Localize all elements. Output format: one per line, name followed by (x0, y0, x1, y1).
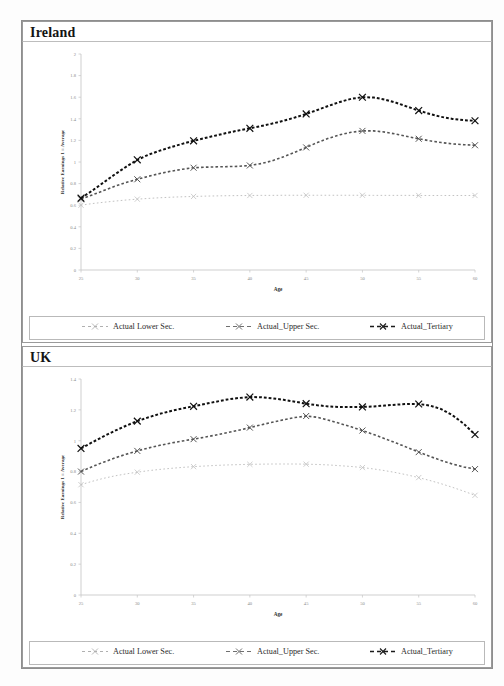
legend-swatch-upper-sec (226, 647, 252, 656)
svg-text:Age: Age (274, 611, 283, 617)
svg-text:0.2: 0.2 (70, 246, 76, 251)
svg-text:25: 25 (79, 276, 84, 281)
svg-text:0: 0 (74, 268, 77, 273)
panel-uk: UK 00.20.40.60.811.21.42530354045505560A… (22, 346, 492, 668)
legend-swatch-lower-sec (82, 647, 108, 656)
svg-text:0.2: 0.2 (70, 562, 76, 567)
svg-text:40: 40 (248, 276, 253, 281)
legend-item-lower-sec[interactable]: Actual Lower Sec. (82, 646, 174, 656)
svg-text:Age: Age (274, 286, 283, 292)
scanned-page: Ireland 00.20.40.60.811.21.41.61.8225303… (0, 0, 504, 686)
svg-text:Relative Earnings 1 = Average: Relative Earnings 1 = Average (60, 129, 65, 194)
uk-plot-area: 00.20.40.60.811.21.42530354045505560AgeR… (23, 367, 491, 639)
svg-text:55: 55 (416, 601, 421, 606)
svg-text:45: 45 (304, 276, 309, 281)
panel-ireland-body: 00.20.40.60.811.21.41.61.822530354045505… (22, 42, 492, 343)
panel-ireland-title: Ireland (30, 25, 76, 40)
svg-text:0.6: 0.6 (70, 203, 76, 208)
svg-text:35: 35 (191, 601, 196, 606)
legend-swatch-tertiary (370, 647, 396, 656)
svg-text:0: 0 (74, 593, 77, 598)
legend-label-tertiary: Actual_Tertiary (401, 647, 453, 656)
svg-text:0.8: 0.8 (70, 181, 76, 186)
legend-swatch-tertiary (370, 322, 396, 331)
page-frame: Ireland 00.20.40.60.811.21.41.61.8225303… (21, 20, 493, 669)
legend-label-tertiary: Actual_Tertiary (401, 322, 453, 331)
svg-text:30: 30 (135, 276, 140, 281)
svg-text:30: 30 (135, 601, 140, 606)
legend-swatch-upper-sec (226, 322, 252, 331)
svg-text:55: 55 (416, 276, 421, 281)
svg-text:0.6: 0.6 (70, 500, 76, 505)
svg-text:0.8: 0.8 (70, 469, 76, 474)
uk-chart: 00.20.40.60.811.21.42530354045505560AgeR… (23, 367, 491, 639)
svg-text:1: 1 (74, 160, 77, 165)
svg-text:60: 60 (473, 276, 478, 281)
svg-text:Relative Earnings 1 = Average: Relative Earnings 1 = Average (60, 454, 65, 519)
panel-uk-title: UK (30, 350, 51, 365)
svg-text:60: 60 (473, 601, 478, 606)
legend-swatch-lower-sec (82, 322, 108, 331)
legend-item-upper-sec[interactable]: Actual_Upper Sec. (226, 321, 319, 331)
ireland-legend: Actual Lower Sec. Actual_Upper Sec. (29, 316, 485, 340)
ireland-plot-area: 00.20.40.60.811.21.41.61.822530354045505… (23, 42, 491, 314)
svg-text:1.2: 1.2 (70, 408, 76, 413)
svg-text:50: 50 (360, 276, 365, 281)
panel-ireland: Ireland 00.20.40.60.811.21.41.61.8225303… (22, 21, 492, 343)
svg-text:0.4: 0.4 (70, 531, 76, 536)
svg-text:45: 45 (304, 601, 309, 606)
svg-text:1.2: 1.2 (70, 138, 76, 143)
legend-label-upper-sec: Actual_Upper Sec. (257, 647, 319, 656)
svg-text:35: 35 (191, 276, 196, 281)
svg-text:25: 25 (79, 601, 84, 606)
svg-text:50: 50 (360, 601, 365, 606)
svg-text:1.8: 1.8 (70, 73, 76, 78)
legend-label-lower-sec: Actual Lower Sec. (113, 322, 174, 331)
svg-text:1.4: 1.4 (70, 117, 76, 122)
panel-uk-body: 00.20.40.60.811.21.42530354045505560AgeR… (22, 367, 492, 668)
legend-item-tertiary[interactable]: Actual_Tertiary (370, 321, 453, 331)
panel-uk-title-bar: UK (22, 346, 492, 367)
svg-text:1: 1 (74, 439, 77, 444)
uk-legend: Actual Lower Sec. Actual_Upper Sec. (29, 641, 485, 665)
legend-item-lower-sec[interactable]: Actual Lower Sec. (82, 321, 174, 331)
ireland-chart: 00.20.40.60.811.21.41.61.822530354045505… (23, 42, 491, 314)
svg-text:0.4: 0.4 (70, 225, 76, 230)
legend-label-lower-sec: Actual Lower Sec. (113, 647, 174, 656)
svg-text:2: 2 (74, 52, 77, 57)
legend-item-tertiary[interactable]: Actual_Tertiary (370, 646, 453, 656)
legend-item-upper-sec[interactable]: Actual_Upper Sec. (226, 646, 319, 656)
svg-text:1.4: 1.4 (70, 377, 76, 382)
svg-text:1.6: 1.6 (70, 95, 76, 100)
legend-label-upper-sec: Actual_Upper Sec. (257, 322, 319, 331)
panel-ireland-title-bar: Ireland (22, 21, 492, 42)
svg-text:40: 40 (248, 601, 253, 606)
